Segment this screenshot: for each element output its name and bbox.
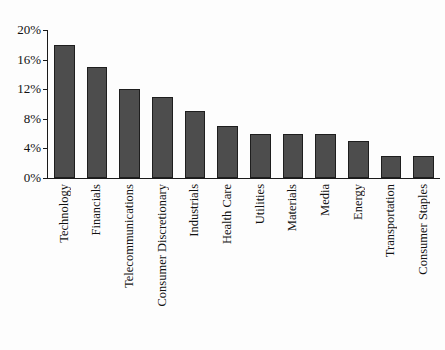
x-axis-label-slot: Health Care [211, 179, 244, 350]
x-axis-label: Transportation [383, 184, 398, 257]
x-axis-label: Industrials [187, 184, 202, 237]
bar[interactable] [348, 141, 369, 178]
x-axis-label-slot: Consumer Staples [407, 179, 440, 350]
bar-slot [146, 30, 179, 178]
y-tick-label: 20% [17, 21, 41, 38]
bar[interactable] [315, 134, 336, 178]
bar-slot [309, 30, 342, 178]
bar-slot [375, 30, 408, 178]
x-axis-label-slot: Industrials [179, 179, 212, 350]
y-tick-label: 12% [17, 80, 41, 97]
x-axis-label-slot: Utilities [244, 179, 277, 350]
bar[interactable] [152, 97, 173, 178]
x-axis-labels: TechnologyFinancialsTelecommunicationsCo… [48, 179, 440, 350]
bar-slot [179, 30, 212, 178]
x-axis-label: Health Care [220, 184, 235, 244]
x-axis-label: Media [318, 184, 333, 216]
bar[interactable] [413, 156, 434, 178]
x-axis-label: Utilities [253, 184, 268, 224]
bar-slot [342, 30, 375, 178]
bar[interactable] [250, 134, 271, 178]
x-axis-label-slot: Consumer Discretionary [146, 179, 179, 350]
bar-slot [277, 30, 310, 178]
y-tick-label: 0% [24, 169, 41, 186]
x-axis-label-slot: Technology [48, 179, 81, 350]
bars-group [48, 30, 440, 178]
bar[interactable] [87, 67, 108, 178]
bar-slot [211, 30, 244, 178]
bar[interactable] [217, 126, 238, 178]
x-axis-label: Energy [351, 184, 366, 220]
x-axis-label: Consumer Discretionary [155, 184, 170, 307]
bar[interactable] [185, 111, 206, 178]
x-axis-label: Technology [57, 184, 72, 243]
y-axis-tick: 4% [0, 148, 48, 149]
x-axis-label-slot: Materials [277, 179, 310, 350]
bar-slot [407, 30, 440, 178]
y-axis-tick: 12% [0, 89, 48, 90]
x-axis-label: Telecommunications [122, 184, 137, 288]
x-axis-label: Consumer Staples [416, 184, 431, 275]
bar-chart: 20%16%12%8%4%0% TechnologyFinancialsTele… [0, 0, 445, 350]
y-tick-label: 8% [24, 110, 41, 127]
bar[interactable] [283, 134, 304, 178]
y-axis-tick: 16% [0, 60, 48, 61]
x-axis-label-slot: Transportation [375, 179, 408, 350]
y-axis-tick: 8% [0, 119, 48, 120]
x-axis-label-slot: Energy [342, 179, 375, 350]
y-tick-label: 16% [17, 51, 41, 68]
y-axis-tick: 0% [0, 178, 48, 179]
bar-slot [244, 30, 277, 178]
x-axis-label-slot: Telecommunications [113, 179, 146, 350]
bar-slot [113, 30, 146, 178]
y-tick-label: 4% [24, 139, 41, 156]
x-axis-label-slot: Media [309, 179, 342, 350]
y-axis-tick: 20% [0, 30, 48, 31]
x-axis-label-slot: Financials [81, 179, 114, 350]
bar-slot [48, 30, 81, 178]
x-axis-label: Materials [285, 184, 300, 231]
bar[interactable] [381, 156, 402, 178]
bar[interactable] [119, 89, 140, 178]
bar-slot [81, 30, 114, 178]
x-axis-label: Financials [89, 184, 104, 235]
bar[interactable] [54, 45, 75, 178]
